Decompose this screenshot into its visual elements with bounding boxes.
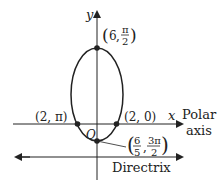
y-axis-label: y bbox=[85, 7, 94, 22]
label-bottom-point: ( 6 5 , 3π 2 ) bbox=[127, 133, 169, 158]
svg-text:π: π bbox=[122, 24, 129, 35]
polar-ellipse-diagram: y x Polar axis Directrix O ( 6 , π 2 ) (… bbox=[0, 0, 221, 193]
label-right-point: (2, 0) bbox=[124, 110, 156, 124]
leader-line-bottom bbox=[97, 141, 126, 147]
svg-text:): ) bbox=[130, 25, 137, 45]
point-top bbox=[94, 45, 100, 51]
svg-text:3π: 3π bbox=[148, 135, 161, 146]
x-axis-label: x bbox=[168, 108, 176, 123]
polar-axis-label-line2: axis bbox=[186, 123, 212, 138]
svg-text:6: 6 bbox=[134, 135, 140, 146]
svg-text:,: , bbox=[116, 29, 120, 43]
svg-text:(: ( bbox=[102, 25, 109, 45]
svg-text:2: 2 bbox=[151, 147, 157, 158]
polar-axis-label-line1: Polar bbox=[182, 107, 217, 122]
origin-label: O bbox=[86, 128, 96, 142]
svg-text:,: , bbox=[143, 140, 147, 154]
point-left bbox=[75, 121, 81, 127]
directrix-label: Directrix bbox=[112, 160, 171, 175]
svg-text:5: 5 bbox=[134, 147, 140, 158]
point-right bbox=[114, 121, 120, 127]
label-top-point: ( 6 , π 2 ) bbox=[102, 24, 137, 47]
svg-text:2: 2 bbox=[122, 36, 128, 47]
label-left-point: (2, π) bbox=[35, 110, 68, 124]
svg-text:): ) bbox=[161, 133, 169, 157]
